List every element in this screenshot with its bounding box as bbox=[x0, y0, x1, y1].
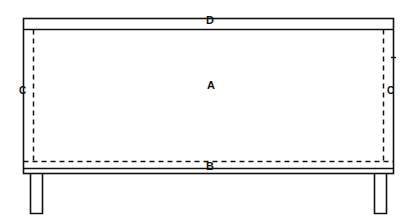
line-drawing-svg bbox=[0, 0, 417, 223]
label-b: B bbox=[206, 161, 214, 172]
label-d: D bbox=[206, 15, 214, 26]
right-leg bbox=[375, 174, 387, 214]
figure-canvas: D A B C C bbox=[0, 0, 417, 223]
label-a: A bbox=[207, 80, 215, 91]
label-c-left: C bbox=[19, 86, 26, 96]
label-c-right: C bbox=[387, 86, 394, 96]
outer-frame bbox=[24, 19, 394, 174]
left-leg bbox=[31, 174, 43, 214]
